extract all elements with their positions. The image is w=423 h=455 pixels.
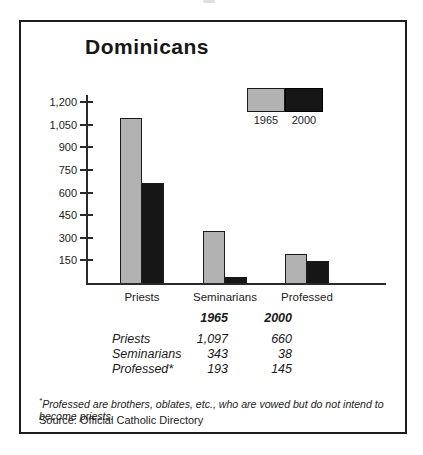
y-tick-label: 600 (27, 187, 77, 199)
y-tick-label: 150 (27, 254, 77, 266)
legend-swatch-1965 (247, 88, 285, 112)
y-tick-mark (80, 237, 93, 239)
y-tick-label: 750 (27, 164, 77, 176)
chart-page: Dominicans 1503004506007509001,0501,200P… (0, 0, 423, 455)
y-tick-mark (80, 259, 93, 261)
table-header-1965: 1965 (160, 311, 228, 325)
table-header-2000: 2000 (235, 311, 292, 325)
legend-label-1965: 1965 (247, 114, 285, 126)
legend-swatches (247, 88, 337, 112)
table-value-priests-1965: 1,097 (160, 332, 228, 346)
bar-2000-professed (307, 261, 329, 283)
y-tick-label: 900 (27, 141, 77, 153)
legend-labels: 1965 2000 (247, 114, 337, 126)
table-value-seminarians-2000: 38 (235, 347, 292, 361)
bar-1965-professed (285, 254, 307, 283)
y-tick-mark (80, 192, 93, 194)
y-tick-mark (80, 169, 93, 171)
chart-legend: 1965 2000 (247, 88, 337, 126)
bar-1965-priests (120, 118, 142, 283)
table-value-priests-2000: 660 (235, 332, 292, 346)
table-value-seminarians-1965: 343 (160, 347, 228, 361)
legend-label-2000: 2000 (285, 114, 323, 126)
y-tick-label: 450 (27, 209, 77, 221)
x-label-professed: Professed (252, 291, 362, 303)
y-tick-mark (80, 214, 93, 216)
bar-1965-seminarians (203, 231, 225, 283)
y-tick-label: 300 (27, 232, 77, 244)
x-axis (86, 283, 386, 285)
y-tick-label: 1,200 (27, 96, 77, 108)
scan-artifact (203, 0, 215, 3)
bar-2000-seminarians (225, 277, 247, 283)
chart-title: Dominicans (85, 35, 209, 59)
table-value-professed-2000: 145 (235, 362, 292, 376)
table-value-professed-1965: 193 (160, 362, 228, 376)
source-line: Source: Official Catholic Directory (39, 414, 203, 426)
bar-2000-priests (142, 183, 164, 283)
y-tick-label: 1,050 (27, 119, 77, 131)
y-tick-mark (80, 101, 93, 103)
y-tick-mark (80, 146, 93, 148)
legend-swatch-2000 (285, 88, 323, 112)
y-tick-mark (80, 124, 93, 126)
